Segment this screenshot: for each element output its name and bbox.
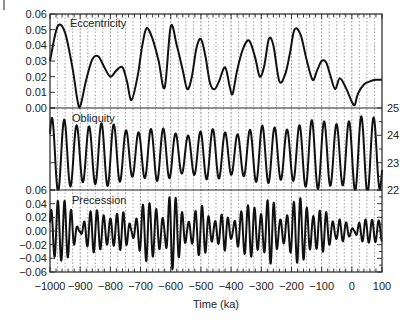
x-tick-label: −200 (279, 280, 304, 292)
y-tick-label-precession: 0.04 (26, 198, 47, 210)
y-tick-label-eccentricity: 0.05 (26, 24, 47, 36)
y-tick-label-precession: −0.04 (19, 252, 47, 264)
y-tick-label-eccentricity: 0.04 (26, 39, 47, 51)
x-tick-label: −700 (128, 280, 153, 292)
y-tick-label-eccentricity: 0.02 (26, 71, 47, 83)
y-tick-label-eccentricity: 0.01 (26, 86, 47, 98)
x-tick-label: 100 (373, 280, 391, 292)
y-tick-label-precession: 0.02 (26, 211, 47, 223)
x-tick-label: −1000 (35, 280, 66, 292)
y-tick-label-obliquity: 24 (387, 129, 399, 141)
y-tick-label-precession: −0.02 (19, 239, 47, 251)
x-tick-label: −900 (68, 280, 93, 292)
data-curves (50, 24, 382, 269)
y-tick-label-obliquity: 23 (387, 157, 399, 169)
y-tick-label-eccentricity: 0.00 (26, 102, 47, 114)
precession-curve (50, 198, 382, 269)
x-tick-label: −400 (219, 280, 244, 292)
precession-label: Precession (72, 194, 126, 206)
y-tick-label-eccentricity: 0.06 (26, 8, 47, 20)
y-tick-label-precession: −0.06 (19, 266, 47, 278)
x-tick-label: −500 (189, 280, 214, 292)
y-tick-label-eccentricity: 0.03 (26, 55, 47, 67)
obliquity-label: Obliquity (72, 112, 115, 124)
x-tick-label: 0 (349, 280, 355, 292)
y-tick-label-obliquity: 22 (387, 184, 399, 196)
x-tick-label: −300 (249, 280, 274, 292)
x-tick-label: −600 (158, 280, 183, 292)
y-tick-label-obliquity: 25 (387, 102, 399, 114)
x-tick-label: −800 (98, 280, 123, 292)
x-axis-title: Time (ka) (193, 298, 239, 310)
y-tick-label-precession: 0.06 (26, 184, 47, 196)
x-tick-label: −100 (309, 280, 334, 292)
eccentricity-label: Eccentricity (70, 17, 127, 29)
orbital-parameters-chart: −1000−900−800−700−600−500−400−300−200−10… (0, 0, 418, 328)
y-tick-label-precession: 0.00 (26, 225, 47, 237)
